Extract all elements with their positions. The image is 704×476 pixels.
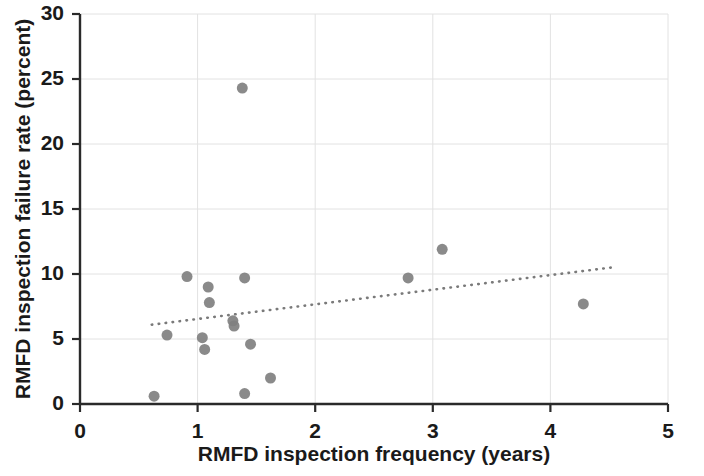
data-point [197,332,208,343]
data-point [149,391,160,402]
data-point [245,339,256,350]
data-point [265,373,276,384]
data-point [204,297,215,308]
y-tick-label: 10 [41,261,64,284]
y-tick-label: 25 [41,66,65,89]
y-tick-label: 5 [52,326,64,349]
data-point [239,272,250,283]
data-point [437,244,448,255]
data-point [199,344,210,355]
x-tick-label: 0 [74,419,86,442]
x-tick-label: 4 [545,419,557,442]
data-point [203,282,214,293]
data-point [182,271,193,282]
x-tick-label: 2 [309,419,321,442]
x-axis-label: RMFD inspection frequency (years) [198,442,550,465]
data-point [578,298,589,309]
y-tick-label: 15 [41,196,65,219]
data-point [237,83,248,94]
x-tick-label: 5 [662,419,674,442]
data-point [239,388,250,399]
scatter-chart-figure: 012345 051015202530 RMFD inspection freq… [0,0,704,476]
data-point [162,330,173,341]
data-point [403,272,414,283]
y-tick-label: 20 [41,131,64,154]
y-axis-label: RMFD inspection failure rate (percent) [11,19,34,399]
y-tick-label: 30 [41,1,64,24]
chart-canvas: 012345 051015202530 RMFD inspection freq… [0,0,704,476]
data-point [229,321,240,332]
y-tick-label: 0 [52,391,64,414]
x-tick-label: 1 [192,419,204,442]
x-tick-label: 3 [427,419,439,442]
